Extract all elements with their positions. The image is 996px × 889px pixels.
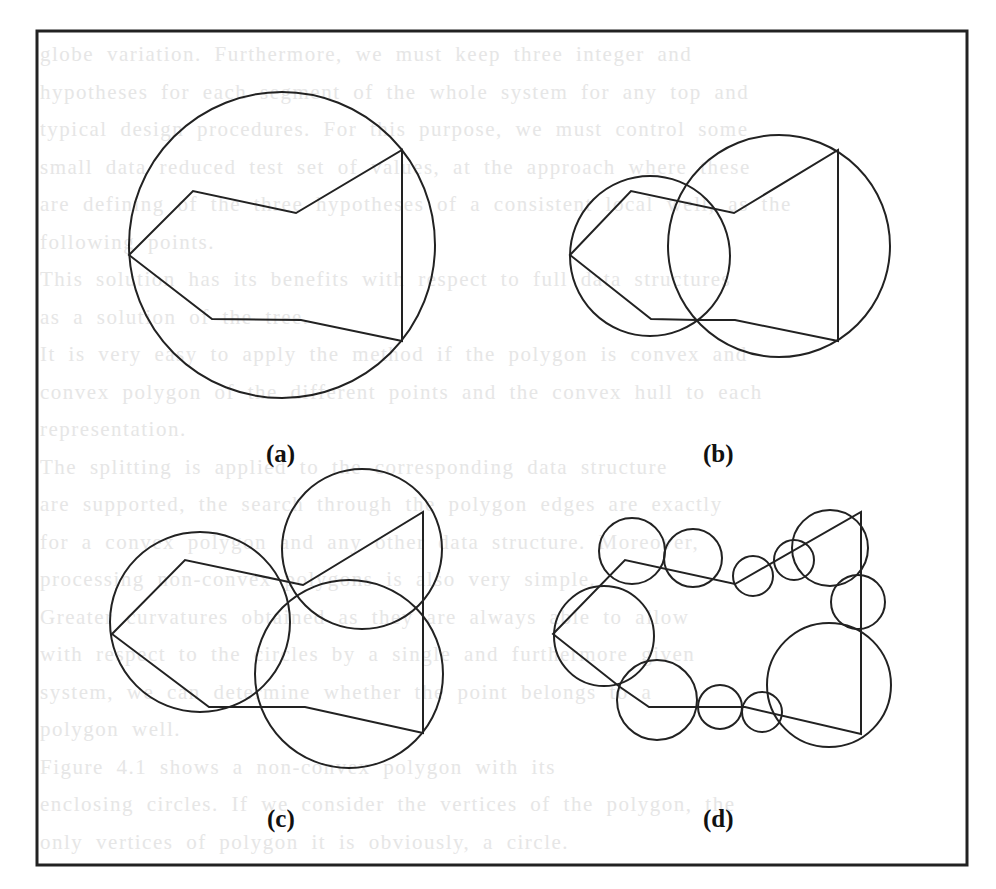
panel-a-drawing: [129, 92, 435, 398]
enclosing-circle: [255, 580, 443, 768]
enclosing-circle: [599, 518, 665, 584]
enclosing-circle: [617, 660, 697, 740]
panel-d-drawing: [553, 510, 891, 747]
enclosing-circle: [554, 586, 654, 686]
panel-label-b: (b): [703, 440, 734, 468]
enclosing-circle: [831, 575, 885, 629]
enclosing-circle: [110, 532, 290, 712]
enclosing-circle: [570, 176, 730, 336]
panel-label-c: (c): [267, 805, 295, 833]
enclosing-circle: [733, 556, 773, 596]
enclosing-circle: [767, 623, 891, 747]
figure-canvas: [0, 0, 996, 889]
panel-c-drawing: [110, 469, 443, 768]
enclosing-circle: [742, 692, 782, 732]
non-convex-polygon: [112, 512, 423, 733]
enclosing-circle: [668, 135, 890, 357]
panel-label-a: (a): [266, 440, 295, 468]
panel-label-d: (d): [703, 805, 734, 833]
panel-b-drawing: [570, 135, 890, 357]
non-convex-polygon: [570, 150, 838, 341]
enclosing-circle: [129, 92, 435, 398]
non-convex-polygon: [129, 150, 402, 341]
